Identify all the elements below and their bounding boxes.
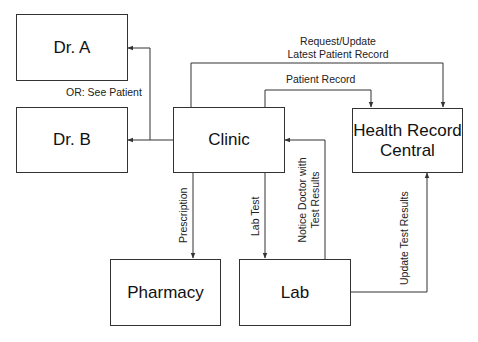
edge-label-lab-test: Lab Test [249,196,262,236]
edge-label-notice-doctor-line2: Test Results [309,150,322,250]
edge-label-request-update-line2: Latest Patient Record [268,48,408,61]
node-dr-a-label: Dr. A [54,38,91,58]
edge-label-patient-record: Patient Record [286,73,355,86]
edge-label-request-update-line1: Request/Update [268,35,408,48]
edge-label-see-patient: OR: See Patient [66,86,142,99]
edge-label-update-test-results: Update Test Results [398,191,411,285]
node-pharmacy: Pharmacy [110,259,221,326]
node-health-record-central: Health Record Central [352,108,463,173]
node-health-record-central-line2: Central [380,141,435,161]
node-clinic-label: Clinic [208,130,250,150]
edge-label-prescription: Prescription [177,188,190,243]
edge-patient-record [265,90,371,107]
edge-label-notice-doctor: Notice Doctor with Test Results [296,150,322,250]
node-health-record-central-line1: Health Record [353,121,462,141]
node-clinic: Clinic [173,107,285,173]
node-pharmacy-label: Pharmacy [127,283,204,303]
edge-update-test-results [351,173,427,292]
node-dr-b-label: Dr. B [53,130,91,150]
node-dr-b: Dr. B [16,107,128,173]
edge-label-notice-doctor-line1: Notice Doctor with [296,150,309,250]
node-lab-label: Lab [281,283,309,303]
edge-label-request-update: Request/Update Latest Patient Record [268,35,408,61]
node-lab: Lab [239,259,351,326]
node-dr-a: Dr. A [16,14,128,81]
